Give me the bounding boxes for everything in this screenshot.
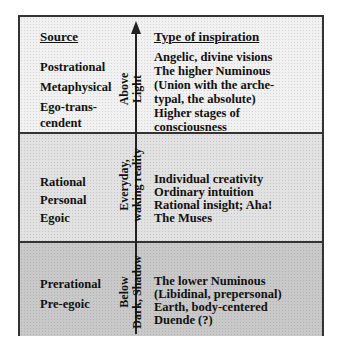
inspiration-list-everyday: Individual creativity Ordinary intuition… (154, 173, 272, 225)
axis-label-above: Above Light (118, 54, 144, 124)
inspiration-list-above: Angelic, divine visions The higher Numin… (154, 50, 274, 134)
source-header: Source (40, 28, 78, 45)
source-item: Egoic (40, 209, 87, 227)
source-item: Postrational (40, 58, 112, 78)
inspiration-item: Higher stages of (154, 106, 274, 120)
source-item: Ego-trans- (40, 98, 112, 114)
axis-label-line2: Light (131, 54, 144, 124)
source-item: Pre-egoic (40, 294, 101, 314)
inspiration-item: The Muses (154, 212, 272, 225)
axis-label-everyday: Everyday, waking reality (118, 140, 144, 230)
source-item: Personal (40, 191, 87, 209)
inspiration-diagram: Source Type of inspiration Postrational … (18, 15, 324, 336)
source-list-everyday: Rational Personal Egoic (40, 173, 87, 227)
axis-label-line2: waking reality (131, 140, 144, 230)
inspiration-header: Type of inspiration (154, 28, 259, 45)
source-list-below: Prerational Pre-egoic (40, 274, 101, 314)
inspiration-item: (Union with the arche- (154, 78, 274, 92)
source-item: Metaphysical (40, 78, 112, 98)
inspiration-item: consciousness (154, 120, 274, 134)
source-item: Rational (40, 173, 87, 191)
inspiration-list-below: The lower Numinous (Libidinal, preperson… (154, 275, 282, 327)
source-item: Prerational (40, 274, 101, 294)
arrow-up-icon (131, 21, 141, 34)
axis-label-line2: Dark, Shadow (131, 252, 144, 332)
inspiration-item: Angelic, divine visions (154, 50, 274, 64)
inspiration-item: The higher Numinous (154, 64, 274, 78)
axis-label-below: Below Dark, Shadow (118, 252, 144, 332)
source-list-above: Postrational Metaphysical Ego-trans- cen… (40, 58, 112, 134)
inspiration-item: typal, the absolute) (154, 92, 274, 106)
source-item: cendent (40, 114, 112, 134)
inspiration-item: Duende (?) (154, 314, 282, 327)
